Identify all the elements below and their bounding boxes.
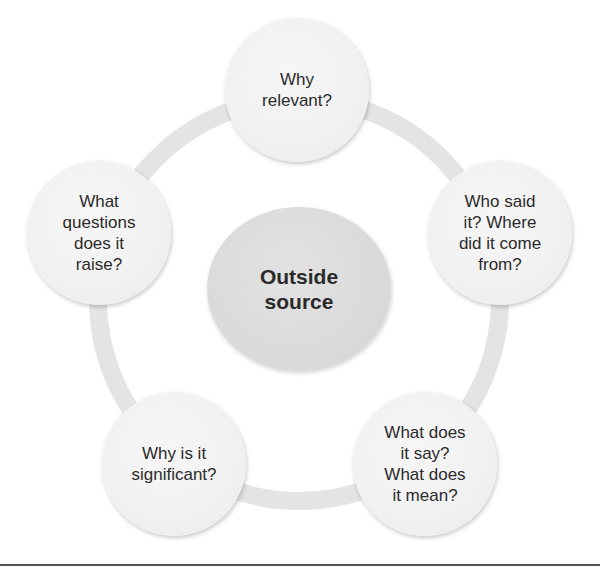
- diagram-canvas: Outside source Why relevant? Who said it…: [0, 0, 600, 571]
- center-node-outside-source: Outside source: [207, 207, 391, 371]
- node-label-top: Why relevant?: [262, 69, 332, 111]
- node-why-significant: Why is it significant?: [102, 392, 246, 536]
- node-label-bottom-left: Why is it significant?: [131, 443, 216, 485]
- node-label-bottom-right: What does it say? What does it mean?: [384, 422, 465, 506]
- center-node-label: Outside source: [260, 264, 338, 314]
- bottom-divider: [0, 564, 600, 566]
- node-label-left: What questions does it raise?: [63, 191, 136, 275]
- node-label-right: Who said it? Where did it come from?: [459, 191, 541, 275]
- node-who-said-it: Who said it? Where did it come from?: [428, 161, 572, 305]
- node-why-relevant: Why relevant?: [225, 18, 369, 162]
- node-what-does-it-say: What does it say? What does it mean?: [353, 392, 497, 536]
- node-what-questions: What questions does it raise?: [27, 161, 171, 305]
